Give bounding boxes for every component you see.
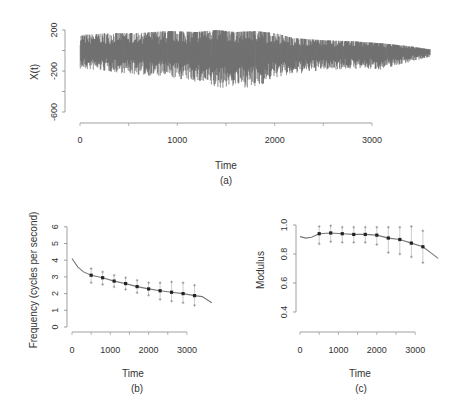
c-point [364, 233, 367, 236]
b-point [136, 285, 139, 288]
b-point [158, 289, 161, 292]
a-xtick-label: 3000 [362, 135, 382, 145]
c-xlabel: Time [349, 368, 371, 379]
c-ylabel: Modulus [255, 251, 266, 289]
a-x-axis: 0100020003000 [77, 123, 382, 145]
b-point [181, 292, 184, 295]
c-xtick-label: 0 [297, 345, 302, 355]
c-y-axis: 0.40.60.81.0 [279, 219, 296, 319]
b-xtick-label: 3000 [177, 345, 197, 355]
panel-a-time-series: 200-200-600 0100020003000 X(t) Time (a) [29, 22, 430, 186]
b-y-axis: 0123456 [50, 224, 67, 329]
b-ytick-label: 2 [50, 291, 60, 296]
a-xtick-label: 0 [77, 135, 82, 145]
b-point [101, 276, 104, 279]
b-point [124, 282, 127, 285]
b-plot-area [72, 259, 212, 307]
b-curve [72, 259, 212, 303]
b-ytick-label: 1 [50, 308, 60, 313]
b-xtick-label: 1000 [100, 345, 120, 355]
c-xtick-label: 2000 [367, 345, 387, 355]
a-ytick-label: 200 [49, 22, 59, 37]
c-point [410, 242, 413, 245]
c-point [318, 232, 321, 235]
c-point [375, 234, 378, 237]
c-point [398, 238, 401, 241]
b-xtick-label: 0 [69, 345, 74, 355]
c-point [329, 231, 332, 234]
a-xlabel: Time [215, 160, 237, 171]
a-ytick-label: -200 [49, 62, 59, 80]
c-point [421, 245, 424, 248]
panel-b-frequency: 0123456 0100020003000 Frequency (cycles … [28, 212, 212, 394]
b-xtick-label: 2000 [139, 345, 159, 355]
a-series-line [80, 30, 430, 88]
b-point [170, 291, 173, 294]
c-point [352, 233, 355, 236]
c-xtick-label: 1000 [328, 345, 348, 355]
b-ylabel: Frequency (cycles per second) [28, 212, 39, 349]
chart-svg: 200-200-600 0100020003000 X(t) Time (a) … [0, 0, 462, 414]
c-x-axis: 0100020003000 [297, 332, 425, 355]
b-ytick-label: 0 [50, 324, 60, 329]
b-ytick-label: 5 [50, 241, 60, 246]
c-plot-area [300, 224, 438, 264]
a-xtick-label: 2000 [265, 135, 285, 145]
c-point [341, 232, 344, 235]
a-ylabel: X(t) [29, 64, 40, 80]
c-ytick-label: 0.8 [279, 248, 289, 261]
b-point [113, 279, 116, 282]
a-y-axis: 200-200-600 [49, 22, 65, 121]
b-ytick-label: 3 [50, 274, 60, 279]
panel-c-modulus: 0.40.60.81.0 0100020003000 Modulus Time … [255, 219, 438, 394]
a-ytick-label: -600 [49, 103, 59, 121]
c-xtick-label: 3000 [405, 345, 425, 355]
c-point [387, 236, 390, 239]
c-ytick-label: 0.6 [279, 277, 289, 290]
a-xtick-label: 1000 [167, 135, 187, 145]
b-caption: (b) [131, 383, 143, 394]
c-caption: (c) [355, 383, 367, 394]
b-ytick-label: 6 [50, 224, 60, 229]
b-point [193, 294, 196, 297]
b-point [147, 287, 150, 290]
b-xlabel: Time [122, 368, 144, 379]
b-ytick-label: 4 [50, 258, 60, 263]
c-curve [300, 233, 438, 258]
b-point [90, 274, 93, 277]
c-ytick-label: 0.4 [279, 306, 289, 319]
a-caption: (a) [220, 175, 232, 186]
b-x-axis: 0100020003000 [69, 332, 196, 355]
c-ytick-label: 1.0 [279, 219, 289, 232]
figure: 200-200-600 0100020003000 X(t) Time (a) … [0, 0, 462, 414]
